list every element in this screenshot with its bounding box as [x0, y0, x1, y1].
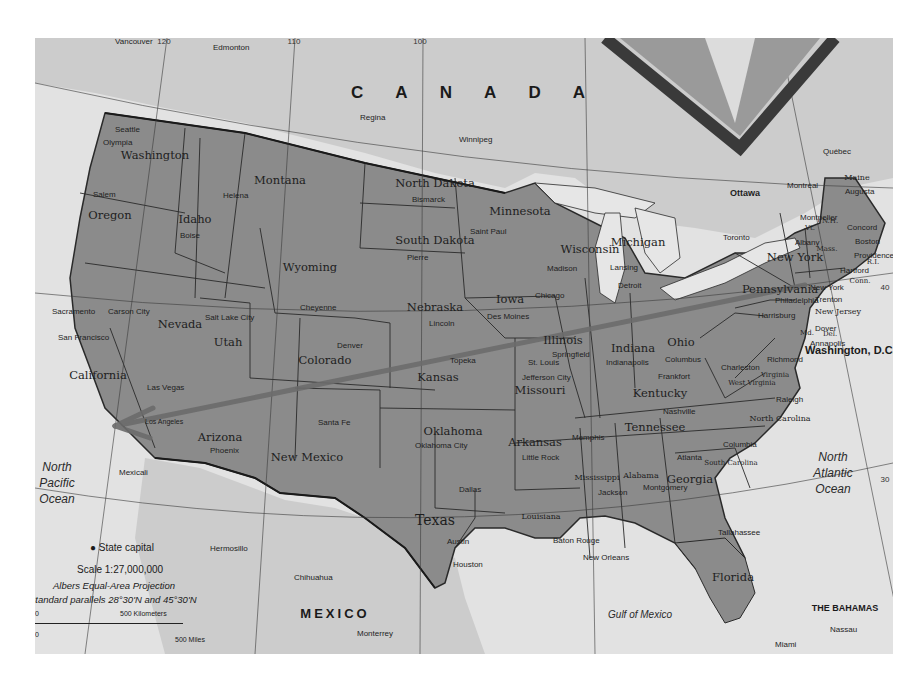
capital-label: Columbia: [723, 441, 757, 449]
city-label: Winnipeg: [459, 136, 492, 144]
state-label: Florida: [712, 572, 754, 584]
state-label: Wyoming: [283, 262, 337, 274]
capital-label: Denver: [337, 342, 363, 350]
state-label: Minnesota: [489, 206, 550, 218]
capital-label: Boston: [855, 238, 880, 246]
state-label: Oklahoma: [423, 426, 482, 438]
state-label: Idaho: [178, 214, 211, 226]
national-capital-label: Washington, D.C.: [805, 345, 893, 356]
capital-label: Raleigh: [776, 396, 803, 404]
capital-label: Madison: [547, 265, 577, 273]
capital-label: Columbus: [665, 356, 701, 364]
city-label: Vancouver: [115, 38, 153, 46]
city-label: Montréal: [787, 182, 818, 190]
capital-label: Jackson: [598, 489, 627, 497]
state-label: Alabama: [623, 472, 658, 480]
capital-label: Augusta: [845, 188, 874, 196]
state-label: Utah: [214, 337, 243, 349]
us-political-map: C A N A D A MEXICO THE BAHAMAS North Pac…: [35, 38, 893, 654]
state-label: Kansas: [417, 372, 459, 384]
scale-mi-label: 500 Miles: [175, 636, 205, 643]
longitude-label: 110: [288, 38, 301, 46]
state-label: Montana: [254, 175, 306, 187]
legend-scale: Scale 1:27,000,000: [77, 565, 163, 575]
capital-label: Dover: [815, 325, 836, 333]
capital-label: Salem: [93, 191, 116, 199]
state-label: Conn.: [850, 278, 871, 285]
capital-label: Helena: [223, 192, 248, 200]
capital-label: Frankfort: [658, 373, 690, 381]
scale-km-zero: 0: [35, 610, 39, 617]
state-label: North Dakota: [395, 178, 475, 190]
state-label: Colorado: [299, 355, 352, 367]
capital-label: Salt Lake City: [205, 314, 254, 322]
city-label: Québec: [823, 148, 851, 156]
capital-label: Saint Paul: [470, 228, 506, 236]
city-label: Detroit: [618, 282, 642, 290]
city-label: St. Louis: [528, 359, 559, 367]
capital-label: Lincoln: [429, 320, 454, 328]
city-label: New Orleans: [583, 554, 629, 562]
city-label: Philadelphia: [775, 297, 819, 305]
capital-label: Austin: [447, 538, 469, 546]
city-label: Los Angeles: [145, 418, 183, 425]
capital-label: Santa Fe: [318, 419, 350, 427]
city-label: Seattle: [115, 126, 140, 134]
capital-label: Lansing: [610, 264, 638, 272]
capital-label: Concord: [847, 224, 877, 232]
capital-label: Little Rock: [522, 454, 559, 462]
foreign-capital-label: Nassau: [830, 626, 857, 634]
capital-label: Providence: [854, 252, 893, 260]
state-label: New Mexico: [271, 452, 343, 464]
state-label: Arizona: [198, 432, 243, 444]
city-label: Monterrey: [357, 630, 393, 638]
capital-label: Des Moines: [487, 313, 529, 321]
state-label: South Carolina: [704, 460, 757, 467]
city-label: Regina: [360, 114, 385, 122]
city-label: Las Vegas: [147, 384, 184, 392]
capital-label: Pierre: [407, 254, 428, 262]
capital-label: Hartford: [840, 267, 869, 275]
city-label: San Francisco: [58, 334, 109, 342]
state-label: Mass.: [817, 246, 838, 253]
country-label-bahamas: THE BAHAMAS: [812, 604, 879, 613]
state-label: Indiana: [611, 343, 655, 355]
state-label: Missouri: [515, 385, 566, 397]
capital-label: Nashville: [663, 408, 695, 416]
city-label: Chicago: [535, 292, 564, 300]
state-label: Washington: [121, 150, 189, 162]
state-label: Nevada: [158, 319, 202, 331]
city-label: Edmonton: [213, 44, 249, 52]
latitude-label: 40: [881, 284, 890, 292]
capital-label: Charleston: [721, 364, 760, 372]
longitude-label: 100: [413, 38, 426, 46]
capital-label: Montpelier: [800, 214, 837, 222]
capital-label: Trenton: [815, 296, 842, 304]
ocean-label-north-pacific: North Pacific Ocean: [39, 459, 74, 508]
capital-label: Richmond: [767, 356, 803, 364]
state-label: Kentucky: [633, 388, 687, 400]
legend-capital-symbol: ● State capital: [90, 543, 154, 553]
city-label: Mexicali: [119, 469, 148, 477]
city-label: Houston: [453, 561, 483, 569]
capital-label: Bismarck: [412, 196, 445, 204]
scale-bar: [35, 623, 183, 624]
capital-label: Oklahoma City: [415, 442, 467, 450]
state-label: Iowa: [496, 294, 524, 306]
state-label: North Carolina: [749, 415, 810, 423]
capital-label: Jefferson City: [522, 374, 571, 382]
latitude-label: 30: [881, 476, 890, 484]
state-label: Texas: [415, 513, 455, 527]
state-label: Maine: [844, 174, 869, 182]
city-label: Miami: [775, 641, 796, 649]
state-label: South Dakota: [395, 235, 474, 247]
state-label: New York: [767, 252, 823, 264]
state-label: Ohio: [667, 337, 694, 349]
state-label: Md.: [800, 330, 814, 337]
foreign-capital-label: Ottawa: [730, 189, 760, 198]
capital-label: Albany: [795, 239, 819, 247]
state-label: Pennsylvania: [742, 284, 818, 296]
state-label: Vt.: [805, 225, 815, 232]
city-label: Hermosillo: [210, 545, 248, 553]
city-label: Toronto: [723, 234, 750, 242]
